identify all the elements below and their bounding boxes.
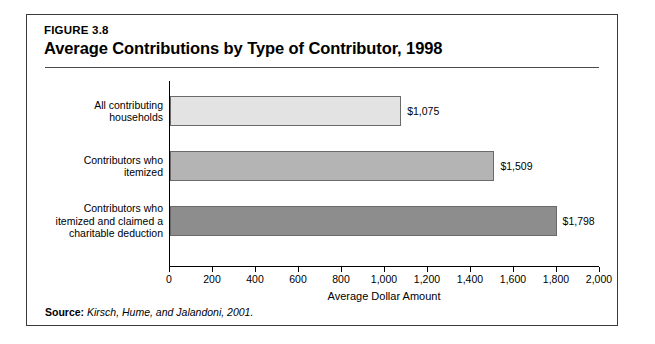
x-tick-label: 1,000 [371, 273, 397, 286]
x-tick-label: 1,800 [543, 273, 569, 286]
x-tick [255, 267, 256, 272]
bar [170, 206, 557, 236]
x-tick [298, 267, 299, 272]
x-tick-label: 600 [289, 273, 307, 286]
bar-row: Contributors whoitemized and claimed ach… [27, 206, 619, 236]
x-tick-label: 0 [166, 273, 172, 286]
x-tick-label: 1,200 [414, 273, 440, 286]
x-tick-label: 200 [203, 273, 221, 286]
figure-container: FIGURE 3.8 Average Contributions by Type… [26, 14, 618, 326]
x-tick-label: 1,600 [500, 273, 526, 286]
source-note: Source: Kirsch, Hume, and Jalandoni, 200… [45, 305, 253, 319]
bar-value-label: $1,509 [500, 160, 532, 173]
source-label: Source: [45, 306, 84, 318]
bar-row: Contributors whoitemized$1,509 [27, 151, 619, 181]
bar-category-label-line: itemized [0, 166, 163, 179]
bar-row: All contributinghouseholds$1,075 [27, 96, 619, 126]
x-tick [384, 267, 385, 272]
x-tick [169, 267, 170, 272]
bar [170, 151, 494, 181]
bar [170, 96, 401, 126]
x-tick [212, 267, 213, 272]
x-tick [556, 267, 557, 272]
bar-category-label: Contributors whoitemized [0, 154, 163, 179]
x-tick-label: 1,400 [457, 273, 483, 286]
x-tick [470, 267, 471, 272]
bar-category-label-line: itemized and claimed a [0, 215, 163, 228]
bar-value-label: $1,798 [563, 215, 595, 228]
x-tick [599, 267, 600, 272]
bar-chart-plot: 02004006008001,0001,2001,4001,6001,8002,… [27, 15, 619, 327]
x-axis-title: Average Dollar Amount [169, 289, 599, 303]
bar-category-label-line: charitable deduction [0, 227, 163, 240]
x-tick-label: 400 [246, 273, 264, 286]
bar-category-label-line: Contributors who [0, 202, 163, 215]
bar-category-label-line: Contributors who [0, 154, 163, 167]
x-tick [513, 267, 514, 272]
x-tick-label: 2,000 [586, 273, 612, 286]
bar-category-label: Contributors whoitemized and claimed ach… [0, 202, 163, 240]
source-text: Kirsch, Hume, and Jalandoni, 2001. [87, 306, 253, 318]
x-tick-label: 800 [332, 273, 350, 286]
bar-value-label: $1,075 [407, 105, 439, 118]
x-tick [427, 267, 428, 272]
bar-category-label-line: All contributing [0, 99, 163, 112]
bar-category-label: All contributinghouseholds [0, 99, 163, 124]
x-tick [341, 267, 342, 272]
bar-category-label-line: households [0, 111, 163, 124]
